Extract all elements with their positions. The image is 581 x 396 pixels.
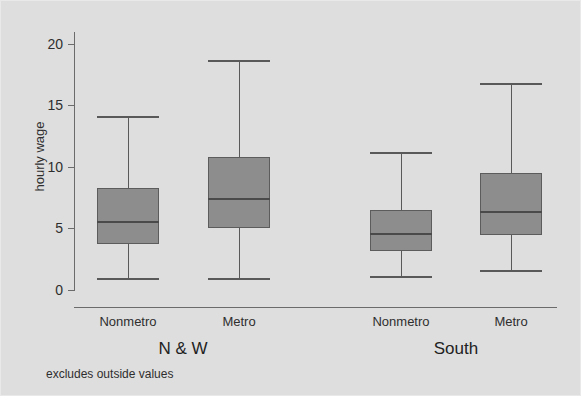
whisker-lower-cap <box>480 270 542 272</box>
category-label: Metro <box>494 314 527 329</box>
y-tick-label: 20 <box>47 37 63 51</box>
group-label: South <box>434 339 478 359</box>
whisker-upper-stem <box>401 152 402 210</box>
y-tick-mark <box>68 44 75 45</box>
y-tick-label: 5 <box>55 221 63 235</box>
category-label: Nonmetro <box>372 314 429 329</box>
whisker-lower-cap <box>208 278 270 280</box>
plot-area: hourly wage 20151050 NonmetroMetroNonmet… <box>1 1 581 396</box>
box-iqr <box>370 210 432 251</box>
boxplot-figure: hourly wage 20151050 NonmetroMetroNonmet… <box>0 0 581 396</box>
footnote: excludes outside values <box>46 367 173 381</box>
median-line <box>370 233 432 235</box>
box-iqr <box>208 157 270 228</box>
group-label: N & W <box>158 339 207 359</box>
whisker-upper-cap <box>97 116 159 118</box>
box-iqr <box>480 173 542 235</box>
x-axis-line <box>74 307 557 308</box>
box-iqr <box>97 188 159 245</box>
whisker-upper-stem <box>511 83 512 173</box>
whisker-lower-stem <box>239 228 240 277</box>
whisker-upper-cap <box>370 152 432 154</box>
whisker-upper-cap <box>208 60 270 62</box>
whisker-upper-cap <box>480 83 542 85</box>
whisker-lower-cap <box>370 276 432 278</box>
y-axis-title: hourly wage <box>32 97 47 217</box>
y-axis-line <box>74 32 75 290</box>
y-tick-mark <box>68 228 75 229</box>
y-tick-mark <box>68 105 75 106</box>
whisker-upper-stem <box>239 60 240 157</box>
y-tick-mark <box>68 290 75 291</box>
whisker-lower-stem <box>511 235 512 271</box>
category-label: Metro <box>222 314 255 329</box>
y-tick-label: 10 <box>47 160 63 174</box>
median-line <box>97 221 159 223</box>
y-tick-label: 15 <box>47 98 63 112</box>
whisker-lower-stem <box>128 244 129 277</box>
whisker-lower-cap <box>97 278 159 280</box>
median-line <box>480 211 542 213</box>
median-line <box>208 198 270 200</box>
y-tick-mark <box>68 167 75 168</box>
whisker-upper-stem <box>128 116 129 187</box>
whisker-lower-stem <box>401 251 402 277</box>
category-label: Nonmetro <box>99 314 156 329</box>
y-tick-label: 0 <box>55 283 63 297</box>
